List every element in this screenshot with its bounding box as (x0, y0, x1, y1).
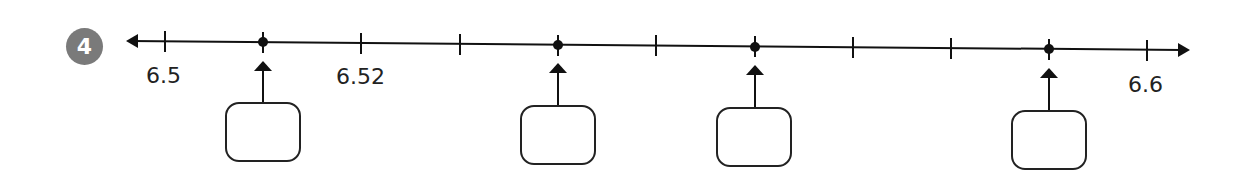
answer-box-2[interactable] (520, 105, 596, 165)
tick-label-6-6: 6.6 (1128, 72, 1163, 97)
tick-label-6-5: 6.5 (146, 63, 181, 88)
answer-box-4[interactable] (1011, 110, 1087, 170)
right-arrow-icon (1178, 43, 1190, 57)
tick-marks (165, 31, 1147, 61)
answer-box-3[interactable] (716, 107, 792, 167)
left-arrow-icon (126, 34, 138, 48)
tick-label-6-52: 6.52 (336, 64, 385, 89)
answer-box-1[interactable] (225, 102, 301, 162)
